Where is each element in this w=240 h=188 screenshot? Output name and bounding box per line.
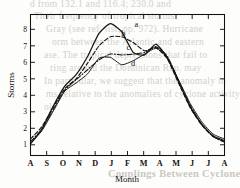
y-tick-label-4: 4 — [23, 91, 27, 100]
plot-frame — [31, 15, 225, 156]
x-tick-label-12: A — [222, 159, 228, 168]
x-tick-label-10: J — [190, 159, 194, 168]
series-label-b: b — [121, 29, 125, 38]
x-tick-label-0: A — [28, 159, 34, 168]
series-line-a — [31, 24, 225, 144]
figure-container: d from 132.1 and 116.4; 230.0 and Their … — [0, 0, 240, 188]
y-tick-label-1: 1 — [23, 140, 27, 149]
x-tick-label-3: N — [76, 159, 82, 168]
series-label-d: d — [131, 59, 136, 68]
y-tick-label-7: 7 — [23, 42, 27, 51]
y-axis-tick-labels: 12345678 — [23, 25, 27, 149]
y-tick-label-6: 6 — [23, 58, 27, 67]
x-axis-ticks-top — [31, 15, 225, 20]
x-tick-label-4: D — [92, 159, 98, 168]
x-axis-ticks — [31, 151, 225, 156]
x-tick-label-1: S — [44, 159, 49, 168]
y-tick-label-8: 8 — [23, 25, 27, 34]
y-axis-ticks — [31, 29, 36, 144]
series-label-a: a — [135, 20, 139, 29]
x-axis-title: Month — [115, 174, 140, 184]
x-tick-label-8: A — [157, 159, 163, 168]
y-tick-label-3: 3 — [23, 107, 27, 116]
series-label-c: c — [126, 43, 130, 52]
x-tick-label-11: J — [206, 159, 210, 168]
y-axis-ticks-right — [220, 29, 225, 144]
x-tick-label-9: M — [172, 159, 180, 168]
y-tick-label-5: 5 — [23, 75, 27, 84]
x-axis-tick-labels: ASONDJFMAMJJA — [28, 159, 228, 168]
x-tick-label-7: M — [140, 159, 148, 168]
x-tick-label-5: J — [109, 159, 113, 168]
y-tick-label-2: 2 — [23, 124, 27, 133]
x-tick-label-2: O — [60, 159, 66, 168]
y-axis-title: Storms — [6, 72, 16, 98]
chart-series-group — [31, 24, 225, 144]
storms-by-month-line-chart: 12345678 ASONDJFMAMJJA abcd Month Storms — [0, 0, 240, 188]
x-tick-label-6: F — [125, 159, 130, 168]
series-line-b — [31, 36, 225, 141]
